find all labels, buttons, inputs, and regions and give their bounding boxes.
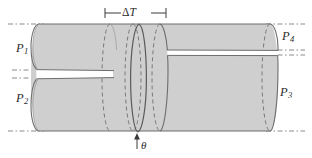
figure-container: P1 P2 P3 P4 ΔT θ bbox=[0, 0, 312, 158]
label-delta-t: ΔT bbox=[122, 7, 136, 19]
label-p1: P1 bbox=[16, 42, 28, 56]
gap-right-fill bbox=[167, 50, 278, 56]
label-p3: P3 bbox=[280, 86, 292, 100]
cylinder-diagram-svg bbox=[0, 0, 312, 158]
label-theta: θ bbox=[141, 140, 146, 151]
label-p2: P2 bbox=[16, 92, 28, 106]
label-p4: P4 bbox=[282, 30, 294, 44]
theta-arrow-head bbox=[134, 133, 140, 140]
theta-arrow bbox=[134, 133, 140, 149]
